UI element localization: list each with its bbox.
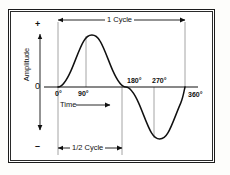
sine-wave-figure: Amplitude + 0 – 0° 90° 180° 270° 360° Ti…	[0, 0, 230, 175]
tick-label-360deg: 360°	[188, 91, 202, 98]
half-cycle-label: 1/2 Cycle	[70, 144, 105, 152]
y-positive-symbol: +	[35, 20, 40, 29]
y-axis-title: Amplitude	[22, 35, 31, 95]
y-negative-symbol: –	[35, 142, 40, 151]
full-cycle-label: 1 Cycle	[105, 16, 134, 24]
y-zero-symbol: 0	[35, 82, 40, 91]
tick-label-270deg: 270°	[152, 77, 166, 84]
tick-label-180deg: 180°	[127, 77, 141, 84]
x-axis-title: Time	[60, 101, 76, 109]
tick-label-90deg: 90°	[78, 90, 89, 97]
tick-label-0deg: 0°	[55, 90, 62, 97]
